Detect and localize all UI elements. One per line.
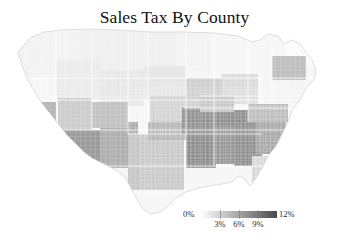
chart-figure: Sales Tax By County: [0, 0, 349, 250]
colorbar-tick-9: [258, 210, 259, 219]
region-california-south: [30, 136, 64, 176]
map-land-base: [0, 26, 349, 221]
page-title: Sales Tax By County: [0, 6, 349, 28]
colorbar-tick-label-9: 9%: [252, 220, 263, 229]
map-svg: [0, 26, 349, 221]
colorbar-tick-label-6: 6%: [233, 220, 244, 229]
colorbar-tick-6: [239, 210, 240, 219]
colorbar-legend: 0% 12% 3% 6% 9%: [183, 206, 323, 236]
colorbar-bar-wrapper: [201, 211, 277, 218]
colorbar-tick-3: [220, 210, 221, 219]
choropleth-map: [0, 26, 349, 221]
colorbar-tick-label-3: 3%: [214, 220, 225, 229]
colorbar-max-label: 12%: [279, 210, 295, 219]
colorbar-min-label: 0%: [183, 210, 194, 219]
